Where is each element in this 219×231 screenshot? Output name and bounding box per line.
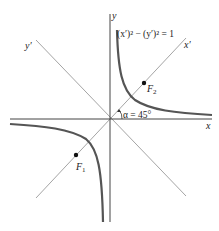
focus-f1-label: F1 — [75, 161, 86, 174]
hyperbola-upper-branch — [117, 30, 212, 115]
y-axis-label: y — [111, 10, 117, 21]
angle-label: α = 45° — [123, 110, 152, 120]
hyperbola-lower-branch — [10, 124, 103, 222]
focus-f1-point — [74, 153, 78, 157]
focus-f2-point — [142, 81, 146, 85]
y-prime-axis — [36, 40, 186, 196]
hyperbola-diagram: y x x′ y′ (x′)² − (y′)² = 1 α = 45° F2 F… — [0, 0, 219, 231]
x-axis-label: x — [205, 120, 211, 131]
hyperbola-equation: (x′)² − (y′)² = 1 — [117, 29, 174, 40]
focus-f2-label: F2 — [146, 83, 157, 96]
x-prime-axis-label: x′ — [183, 39, 191, 50]
y-prime-axis-label: y′ — [24, 40, 32, 51]
